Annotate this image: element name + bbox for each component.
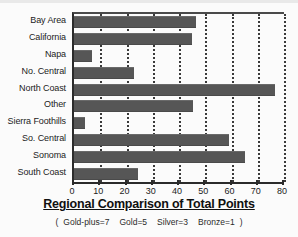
category-label: Sonoma bbox=[0, 146, 69, 163]
category-label: Other bbox=[0, 96, 69, 113]
bar-row bbox=[74, 48, 284, 65]
bar-row bbox=[74, 64, 284, 81]
footnote-open-paren: ( bbox=[56, 217, 59, 227]
bar-series bbox=[74, 14, 284, 182]
bar-chart: Bay Area California Napa No. Central Nor… bbox=[0, 0, 298, 237]
axis-tick-label: 80 bbox=[277, 186, 287, 196]
gridline bbox=[284, 14, 286, 182]
category-label: No. Central bbox=[0, 62, 69, 79]
bar-row bbox=[74, 98, 284, 115]
axis-tick-label: 40 bbox=[172, 186, 182, 196]
footnote-item-gold: Gold=5 bbox=[119, 217, 147, 227]
axis-tick-label: 30 bbox=[146, 186, 156, 196]
category-label: So. Central bbox=[0, 130, 69, 147]
axis-tick-label: 0 bbox=[69, 186, 74, 196]
category-label: North Coast bbox=[0, 79, 69, 96]
axis-tick bbox=[256, 180, 258, 185]
axis-tick-label: 10 bbox=[93, 186, 103, 196]
bar-row bbox=[74, 115, 284, 132]
axis-tick bbox=[151, 180, 153, 185]
axis-tick-label: 70 bbox=[251, 186, 261, 196]
category-label: South Coast bbox=[0, 163, 69, 180]
axis-tick-label: 20 bbox=[119, 186, 129, 196]
bar-bay-area bbox=[74, 16, 196, 28]
footnote-close-paren: ) bbox=[240, 217, 243, 227]
bar-california bbox=[74, 33, 192, 45]
category-label: California bbox=[0, 29, 69, 46]
category-label: Sierra Foothills bbox=[0, 113, 69, 130]
bar-napa bbox=[74, 50, 92, 62]
bar-row bbox=[74, 81, 284, 98]
footnote-item-silver: Silver=3 bbox=[157, 217, 188, 227]
bar-row bbox=[74, 31, 284, 48]
bar-sonoma bbox=[74, 151, 245, 163]
plot-area bbox=[72, 12, 284, 184]
bar-row bbox=[74, 148, 284, 165]
bar-south-coast bbox=[74, 168, 138, 180]
footnote-item-gold-plus: Gold-plus=7 bbox=[63, 217, 109, 227]
bar-row bbox=[74, 132, 284, 149]
category-axis-labels: Bay Area California Napa No. Central Nor… bbox=[0, 12, 69, 180]
chart-title: Regional Comparison of Total Points bbox=[0, 197, 298, 211]
footnote-item-bronze: Bronze=1 bbox=[198, 217, 235, 227]
category-label: Napa bbox=[0, 46, 69, 63]
axis-tick bbox=[282, 180, 284, 185]
bar-so-central bbox=[74, 134, 229, 146]
bar-north-coast bbox=[74, 84, 275, 96]
bar-no-central bbox=[74, 67, 134, 79]
axis-tick bbox=[230, 180, 232, 185]
category-label: Bay Area bbox=[0, 12, 69, 29]
scanned-page-background: Bay Area California Napa No. Central Nor… bbox=[0, 0, 298, 237]
bar-row bbox=[74, 165, 284, 182]
bar-row bbox=[74, 14, 284, 31]
axis-tick-label: 60 bbox=[224, 186, 234, 196]
axis-tick bbox=[125, 180, 127, 185]
axis-tick bbox=[177, 180, 179, 185]
bar-other bbox=[74, 100, 193, 112]
axis-tick bbox=[203, 180, 205, 185]
scoring-key-footnote: (Gold-plus=7Gold=5Silver=3Bronze=1) bbox=[0, 217, 298, 227]
axis-tick-label: 50 bbox=[198, 186, 208, 196]
axis-tick bbox=[72, 180, 74, 185]
bar-sierra-foothills bbox=[74, 117, 85, 129]
axis-tick bbox=[98, 180, 100, 185]
